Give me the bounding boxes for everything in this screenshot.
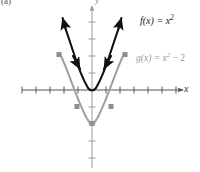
marker-point <box>75 104 80 109</box>
arrow-inward-right-icon <box>104 56 111 69</box>
axis-x <box>22 87 183 94</box>
marker-point <box>57 52 62 57</box>
axis-x-label: x <box>184 83 188 94</box>
curve-label-g: g(x) = x2 − 2 <box>136 49 185 64</box>
marker-point <box>90 121 95 126</box>
marker-point <box>123 52 128 57</box>
curve-label-g-text: g(x) = x <box>136 53 167 63</box>
axis-y <box>89 6 96 168</box>
curve-label-f-text: f(x) = x <box>140 15 170 26</box>
curve-label-g-tail: − 2 <box>170 53 185 63</box>
axis-y-label: y <box>95 0 99 5</box>
arrow-inward-left-icon <box>73 56 80 69</box>
panel-label: (a) <box>1 0 11 6</box>
curve-label-f: f(x) = x2 <box>140 13 174 26</box>
curve-label-f-exponent: 2 <box>170 14 174 22</box>
marker-point <box>109 104 114 109</box>
figure-container: (a) f(x) = x2 g(x) = x2 − 2 x y <box>0 0 200 172</box>
